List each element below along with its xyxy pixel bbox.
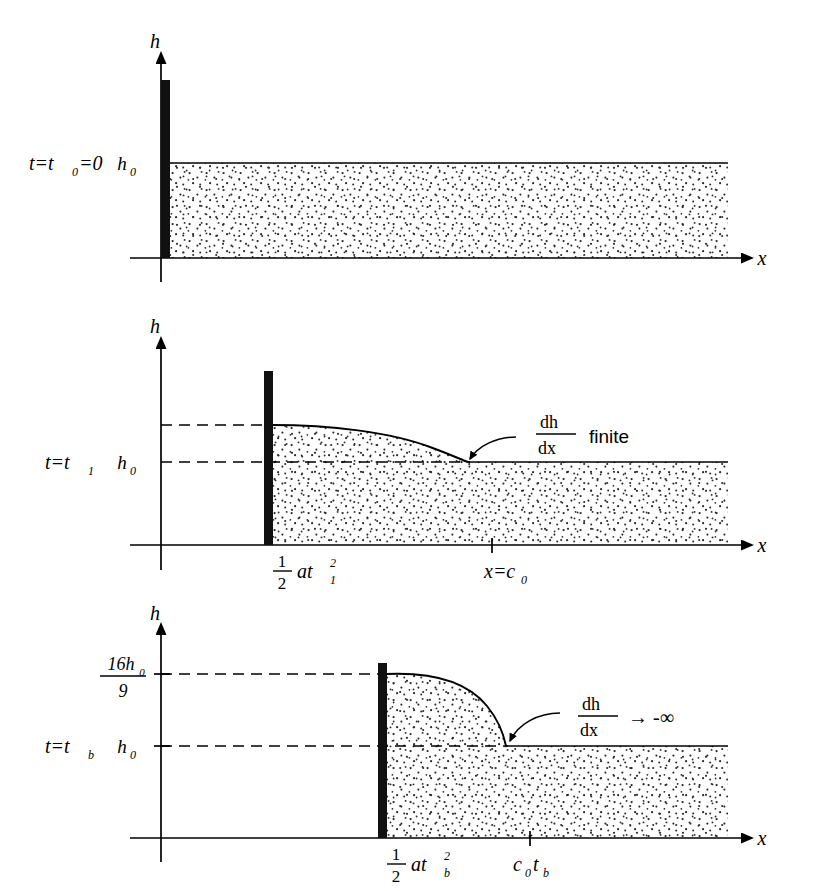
y-axis-label-tb: h <box>150 602 160 624</box>
top-level-den-tb: 9 <box>119 681 128 701</box>
time-label-text-t0: t=t <box>29 152 54 174</box>
h0-label-sub-t1: 0 <box>130 464 136 478</box>
piston-x-label-body-t1: at <box>297 560 313 582</box>
piston-x-label-num-tb: 1 <box>392 845 401 864</box>
piston-x-label-sub-t1: 1 <box>330 573 336 587</box>
x-axis-label-tb: x <box>757 827 767 849</box>
fluid-body-t0 <box>168 163 728 258</box>
piston-x-label-sub-tb: b <box>444 866 450 880</box>
piston-tb <box>378 663 387 838</box>
annotation-num-t1: dh <box>540 412 558 432</box>
x-axis-label-t1: x <box>757 534 767 556</box>
front-x-label-body-tb: c <box>513 853 522 875</box>
front-x-label-sub-t1: 0 <box>521 573 527 587</box>
h0-label-sub-t0: 0 <box>130 165 136 179</box>
time-label-text-tb: t=t <box>45 735 70 757</box>
piston-t0 <box>161 80 170 258</box>
front-x-label-sub1-tb: 0 <box>525 866 531 880</box>
h0-label-text-tb: h <box>117 736 127 757</box>
annotation-den-t1: dx <box>538 438 556 458</box>
time-label-text-t1: t=t <box>45 451 70 473</box>
h0-label-sub-tb: 0 <box>130 748 136 762</box>
piston-x-label-sup-t1: 2 <box>330 556 336 570</box>
y-axis-label-t0: h <box>150 30 160 52</box>
top-level-num-tb: 16h <box>108 654 135 674</box>
annotation-num-tb: dh <box>582 694 600 714</box>
piston-t1 <box>264 371 273 545</box>
x-axis-label-t0: x <box>757 247 767 269</box>
time-label-sub-t0: 0 <box>72 165 78 179</box>
piston-x-label-den-t1: 2 <box>278 574 287 593</box>
y-axis-label-t1: h <box>150 315 160 337</box>
piston-x-label-body-tb: at <box>411 853 427 875</box>
piston-x-label-num-t1: 1 <box>278 552 287 571</box>
piston-x-label-den-tb: 2 <box>392 867 401 886</box>
dam-break-diagram: h x h 0 t=t 0 =0 <box>0 0 825 891</box>
time-label-sub-tb: b <box>88 748 94 762</box>
annotation-tail-t1: finite <box>589 426 629 447</box>
h0-label-text-t1: h <box>117 452 127 473</box>
time-label-sub-t1: 1 <box>88 464 94 478</box>
piston-x-label-sup-tb: 2 <box>444 849 450 863</box>
front-x-label-body2-tb: t <box>533 853 539 875</box>
front-x-label-text-t1: x=c <box>483 560 515 582</box>
h0-label-text-t0: h <box>117 153 127 174</box>
annotation-tail-tb: → -∞ <box>628 706 674 728</box>
time-label-tail-t0: =0 <box>79 152 103 174</box>
front-x-label-sub2-tb: b <box>543 866 549 880</box>
figure-root: h x h 0 t=t 0 =0 <box>0 0 825 891</box>
annotation-den-tb: dx <box>580 720 598 740</box>
